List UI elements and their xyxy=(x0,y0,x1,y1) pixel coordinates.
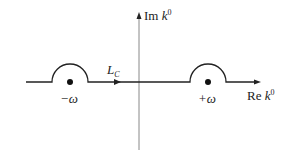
real-axis-label: Re k0 xyxy=(247,88,274,103)
contour-path xyxy=(26,64,256,82)
contour-direction-arrow-icon xyxy=(114,79,121,85)
real-axis-arrow-icon xyxy=(254,80,261,85)
pole-label-plus-omega: +ω xyxy=(198,91,216,106)
contour-diagram: Im k0 Re k0 LC −ω +ω xyxy=(0,0,294,154)
imaginary-axis-label: Im k0 xyxy=(144,8,171,23)
pole-plus-omega xyxy=(205,79,211,85)
contour-label: LC xyxy=(106,62,120,79)
pole-minus-omega xyxy=(67,79,73,85)
pole-label-minus-omega: −ω xyxy=(60,91,78,106)
imaginary-axis-arrow-icon xyxy=(137,12,142,19)
